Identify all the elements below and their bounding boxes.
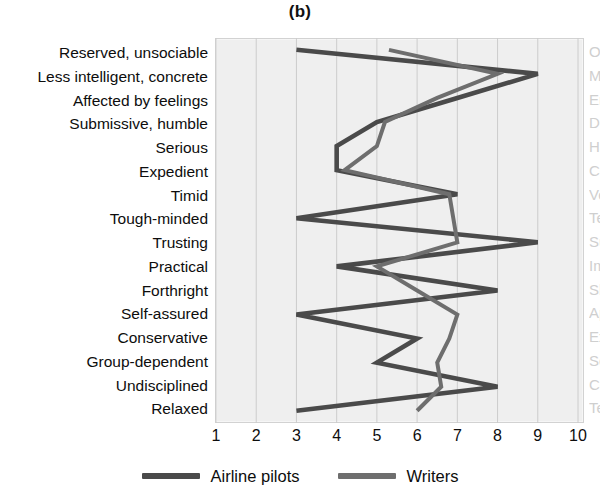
category-label: Relaxed xyxy=(8,397,208,421)
right-category-label: Happy-go-lucky xyxy=(589,135,600,159)
right-category-label: Emotionally stable xyxy=(589,88,600,112)
legend-label: Writers xyxy=(407,467,459,486)
chart-container: (b) Reserved, unsociableLess intelligent… xyxy=(0,0,600,493)
category-label: Trusting xyxy=(8,231,208,255)
category-label: Less intelligent, concrete xyxy=(8,65,208,89)
value-tick-label: 10 xyxy=(565,427,591,445)
chart-title: (b) xyxy=(0,2,600,22)
right-category-label: Dominant, assertive xyxy=(589,111,600,135)
category-label: Conservative xyxy=(8,326,208,350)
category-label: Timid xyxy=(8,184,208,208)
right-category-label: Conscientious xyxy=(589,159,600,183)
category-label: Tough-minded xyxy=(8,207,208,231)
legend-swatch xyxy=(338,473,396,479)
category-label: Practical xyxy=(8,255,208,279)
right-category-label: More intelligent, abstract xyxy=(589,64,600,88)
value-axis-ticks: 12345678910 xyxy=(0,427,600,453)
category-axis-labels: Reserved, unsociableLess intelligent, co… xyxy=(8,41,208,421)
right-category-label: Self-sufficient xyxy=(589,349,600,373)
right-category-label: Tender-minded xyxy=(589,206,600,230)
category-label: Serious xyxy=(8,136,208,160)
category-label: Affected by feelings xyxy=(8,89,208,113)
chart-legend: Airline pilotsWriters xyxy=(0,462,600,490)
right-category-label: Controlled xyxy=(589,373,600,397)
right-category-label: Suspicious xyxy=(589,230,600,254)
value-tick-label: 5 xyxy=(364,427,390,445)
value-tick-label: 8 xyxy=(485,427,511,445)
right-category-label: Imaginative xyxy=(589,254,600,278)
category-label: Submissive, humble xyxy=(8,112,208,136)
category-label: Self-assured xyxy=(8,302,208,326)
legend-label: Airline pilots xyxy=(211,467,300,486)
right-category-label: Venturesome xyxy=(589,183,600,207)
category-label: Group-dependent xyxy=(8,350,208,374)
value-tick-label: 9 xyxy=(525,427,551,445)
value-tick-label: 1 xyxy=(203,427,229,445)
value-tick-label: 4 xyxy=(324,427,350,445)
value-tick-label: 3 xyxy=(283,427,309,445)
right-category-label: Outgoing, participating xyxy=(589,40,600,64)
category-label: Reserved, unsociable xyxy=(8,41,208,65)
value-tick-label: 2 xyxy=(243,427,269,445)
right-category-label: Apprehensive xyxy=(589,301,600,325)
legend-item[interactable]: Writers xyxy=(338,467,459,486)
right-category-labels-cropped: Outgoing, participatingMore intelligent,… xyxy=(589,40,600,430)
value-tick-label: 7 xyxy=(444,427,470,445)
value-tick-label: 6 xyxy=(404,427,430,445)
right-category-label: Tense xyxy=(589,396,600,420)
category-label: Undisciplined xyxy=(8,374,208,398)
right-category-label: Experimenting xyxy=(589,325,600,349)
category-label: Expedient xyxy=(8,160,208,184)
category-label: Forthright xyxy=(8,279,208,303)
legend-swatch xyxy=(142,473,200,479)
plot-svg xyxy=(215,38,584,423)
legend-item[interactable]: Airline pilots xyxy=(142,467,300,486)
right-category-label: Shrewd xyxy=(589,278,600,302)
